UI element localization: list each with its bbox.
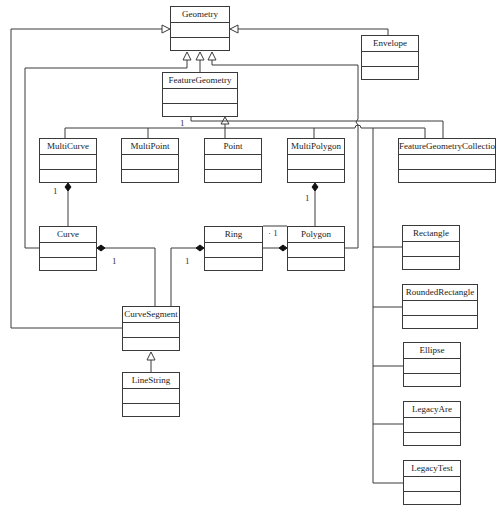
class-name: LegacyTest xyxy=(404,461,460,477)
class-attributes-compartment xyxy=(205,243,262,258)
generalization-arrow-icon xyxy=(230,25,238,33)
class-name: CurveSegment xyxy=(123,307,179,323)
class-operations-compartment xyxy=(288,170,344,183)
class-operations-compartment xyxy=(403,257,459,270)
multiplicity-label-ring-curvesegment: 1 xyxy=(185,256,190,266)
class-name: Point xyxy=(205,139,261,155)
multiplicity-label-multicurve-curve: 1 xyxy=(53,186,58,196)
class-attributes-compartment xyxy=(403,242,459,257)
class-operations-compartment xyxy=(40,258,96,271)
class-name: Geometry xyxy=(171,7,229,23)
class-operations-compartment xyxy=(171,38,229,51)
class-name: RoundedRectangle xyxy=(403,285,477,301)
class-operations-compartment xyxy=(404,433,460,446)
class-attributes-compartment xyxy=(362,52,418,67)
class-operations-compartment xyxy=(40,170,96,183)
class-box-geometry[interactable]: Geometry xyxy=(170,6,230,51)
generalization-arrow-icon xyxy=(162,25,170,33)
class-box-polygon[interactable]: Polygon xyxy=(287,226,345,271)
generalization-arrow-icon xyxy=(183,52,191,60)
class-attributes-compartment xyxy=(40,243,96,258)
multiplicity-label-fg-children: 1 xyxy=(180,118,185,128)
class-attributes-compartment xyxy=(288,155,344,170)
class-operations-compartment xyxy=(288,258,344,271)
class-name: FeatureGeometryCollection xyxy=(399,139,495,155)
class-attributes-compartment xyxy=(205,155,261,170)
class-name: Polygon xyxy=(288,227,344,243)
class-name: Curve xyxy=(40,227,96,243)
class-box-curve[interactable]: Curve xyxy=(39,226,97,271)
class-operations-compartment xyxy=(403,316,477,329)
class-box-point[interactable]: Point xyxy=(204,138,262,183)
class-name: MultiCurve xyxy=(40,139,96,155)
class-name: Envelope xyxy=(362,36,418,52)
class-operations-compartment xyxy=(123,404,179,417)
composition-diamond-icon xyxy=(279,245,287,251)
multiplicity-label-curve-curvesegment: 1 xyxy=(112,256,117,266)
class-box-legacy-text[interactable]: LegacyTest xyxy=(403,460,461,505)
class-name: Rectangle xyxy=(403,226,459,242)
composition-diamond-icon xyxy=(65,183,71,191)
class-box-legacy-arc[interactable]: LegacyAre xyxy=(403,401,461,446)
class-attributes-compartment xyxy=(163,89,237,104)
class-attributes-compartment xyxy=(404,418,460,433)
class-name: MultiPoint xyxy=(122,139,178,155)
class-operations-compartment xyxy=(399,170,495,183)
class-operations-compartment xyxy=(205,258,262,271)
class-box-ellipse[interactable]: Ellipse xyxy=(403,342,461,387)
class-attributes-compartment xyxy=(404,477,460,492)
class-box-envelope[interactable]: Envelope xyxy=(361,35,419,80)
class-operations-compartment xyxy=(404,374,460,387)
class-operations-compartment xyxy=(404,492,460,505)
generalization-arrow-icon xyxy=(147,352,155,360)
class-box-ring[interactable]: Ring xyxy=(204,226,263,271)
class-operations-compartment xyxy=(123,338,179,351)
class-box-multicurve[interactable]: MultiCurve xyxy=(39,138,97,183)
class-box-curve-segment[interactable]: CurveSegment xyxy=(122,306,180,351)
class-box-feature-geometry[interactable]: FeatureGeometry xyxy=(162,72,238,117)
class-attributes-compartment xyxy=(123,389,179,404)
class-name: Ellipse xyxy=(404,343,460,359)
class-name: LegacyAre xyxy=(404,402,460,418)
composition-diamond-icon xyxy=(196,245,204,251)
multiplicity-label-polygon-ring: · 1 xyxy=(268,228,278,238)
composition-diamond-icon xyxy=(312,183,318,191)
class-operations-compartment xyxy=(205,170,261,183)
class-box-linestring[interactable]: LineString xyxy=(122,372,180,417)
class-operations-compartment xyxy=(362,67,418,80)
class-attributes-compartment xyxy=(404,359,460,374)
class-box-multipolygon[interactable]: MultiPolygon xyxy=(287,138,345,183)
composition-diamond-icon xyxy=(97,245,105,251)
class-attributes-compartment xyxy=(122,155,178,170)
class-box-rounded-rectangle[interactable]: RoundedRectangle xyxy=(402,284,478,329)
class-attributes-compartment xyxy=(399,155,495,170)
class-operations-compartment xyxy=(163,104,237,117)
generalization-arrow-icon xyxy=(208,52,216,60)
class-attributes-compartment xyxy=(40,155,96,170)
class-attributes-compartment xyxy=(403,301,477,316)
multiplicity-label-multipolygon-polygon: 1 xyxy=(305,193,310,203)
class-attributes-compartment xyxy=(171,23,229,38)
class-name: MultiPolygon xyxy=(288,139,344,155)
class-name: FeatureGeometry xyxy=(163,73,237,89)
class-operations-compartment xyxy=(122,170,178,183)
class-box-feature-geometry-collection[interactable]: FeatureGeometryCollection xyxy=(398,138,496,183)
class-attributes-compartment xyxy=(288,243,344,258)
generalization-arrow-icon xyxy=(196,52,204,60)
class-name: LineString xyxy=(123,373,179,389)
curve-curvesegment-line xyxy=(102,248,155,306)
class-box-rectangle[interactable]: Rectangle xyxy=(402,225,460,270)
class-name: Ring xyxy=(205,227,262,243)
class-attributes-compartment xyxy=(123,323,179,338)
class-box-multipoint[interactable]: MultiPoint xyxy=(121,138,179,183)
